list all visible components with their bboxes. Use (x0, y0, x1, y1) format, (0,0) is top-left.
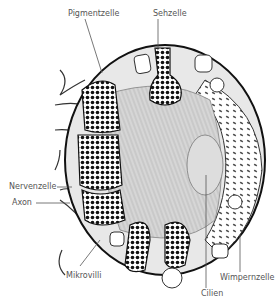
label-mikrovilli: Mikrovilli (66, 272, 101, 280)
label-wimpernzelle: Wimpernzelle (220, 274, 274, 282)
label-cilien: Cilien (201, 290, 223, 298)
label-sehzelle: Sehzelle (153, 10, 187, 18)
label-pigmentzelle: Pigmentzelle (68, 10, 119, 18)
label-axon: Axon (12, 199, 32, 207)
label-nervenzelle: Nervenzelle (9, 183, 56, 191)
eye-cross-section-illustration (0, 0, 279, 307)
